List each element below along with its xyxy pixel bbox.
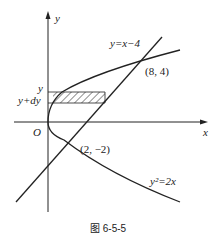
- lower-intersection-label: (2, −2): [80, 143, 110, 156]
- line-label: y=x−4: [109, 37, 141, 49]
- diagram: y x O y y+dy y=x−4 (8, 4) (2, −2) y²=2x …: [0, 0, 223, 237]
- parabola-label: y²=2x: [149, 175, 176, 187]
- upper-intersection-label: (8, 4): [145, 65, 169, 78]
- strip-top-label: y: [37, 82, 43, 94]
- strip-bottom-label: y+dy: [17, 94, 41, 106]
- x-axis: [14, 120, 208, 125]
- x-axis-label: x: [202, 126, 208, 138]
- y-axis-label: y: [54, 12, 60, 24]
- origin-label: O: [33, 126, 41, 138]
- figure-caption: 图 6-5-5: [90, 223, 127, 234]
- line-curve: [16, 37, 162, 202]
